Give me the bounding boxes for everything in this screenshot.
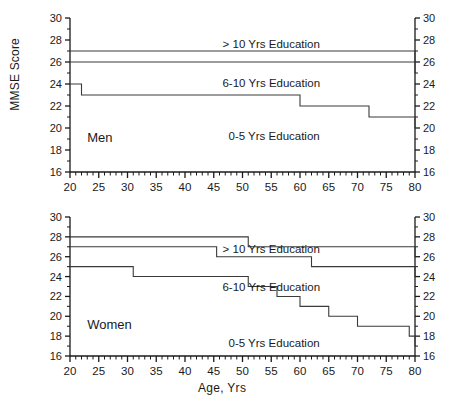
svg-text:55: 55 — [265, 365, 278, 377]
svg-text:35: 35 — [150, 365, 163, 377]
svg-text:22: 22 — [423, 290, 435, 302]
svg-text:16: 16 — [50, 350, 62, 362]
svg-text:55: 55 — [265, 181, 278, 193]
svg-text:22: 22 — [50, 290, 62, 302]
svg-text:16: 16 — [50, 166, 62, 178]
svg-text:60: 60 — [294, 181, 307, 193]
svg-text:> 10 Yrs Education: > 10 Yrs Education — [223, 243, 320, 255]
svg-text:50: 50 — [236, 181, 249, 193]
svg-text:28: 28 — [50, 231, 62, 243]
svg-text:24: 24 — [423, 78, 435, 90]
svg-text:30: 30 — [50, 211, 62, 223]
svg-text:0-5 Yrs Education: 0-5 Yrs Education — [229, 337, 320, 349]
svg-text:6-10 Yrs Education: 6-10 Yrs Education — [222, 77, 320, 89]
svg-text:> 10 Yrs Education: > 10 Yrs Education — [223, 38, 320, 50]
svg-text:30: 30 — [423, 211, 435, 223]
svg-text:26: 26 — [423, 251, 435, 263]
y-axis-label-men: MMSE Score — [8, 38, 22, 111]
svg-text:25: 25 — [92, 181, 105, 193]
svg-text:6-10 Yrs Education: 6-10 Yrs Education — [222, 281, 320, 293]
svg-text:70: 70 — [351, 365, 364, 377]
svg-text:40: 40 — [179, 365, 192, 377]
svg-text:50: 50 — [236, 365, 249, 377]
svg-text:Women: Women — [87, 317, 132, 332]
svg-text:30: 30 — [50, 12, 62, 24]
x-axis-label: Age, Yrs — [198, 381, 246, 395]
svg-text:24: 24 — [423, 271, 435, 283]
chart-svg-men: 1616181820202222242426262828303020253035… — [0, 4, 456, 200]
svg-text:20: 20 — [64, 365, 77, 377]
svg-text:18: 18 — [50, 144, 62, 156]
svg-text:26: 26 — [50, 251, 62, 263]
svg-text:18: 18 — [423, 330, 435, 342]
svg-text:28: 28 — [423, 231, 435, 243]
svg-text:24: 24 — [50, 271, 62, 283]
svg-text:16: 16 — [423, 166, 435, 178]
svg-text:18: 18 — [50, 330, 62, 342]
svg-text:35: 35 — [150, 181, 163, 193]
svg-text:75: 75 — [380, 365, 393, 377]
svg-text:20: 20 — [423, 310, 435, 322]
svg-text:20: 20 — [50, 310, 62, 322]
svg-text:30: 30 — [121, 181, 134, 193]
svg-text:80: 80 — [409, 365, 422, 377]
svg-text:0-5 Yrs Education: 0-5 Yrs Education — [229, 130, 320, 142]
svg-text:18: 18 — [423, 144, 435, 156]
svg-text:16: 16 — [423, 350, 435, 362]
svg-text:25: 25 — [92, 365, 105, 377]
svg-text:65: 65 — [322, 181, 335, 193]
svg-text:26: 26 — [423, 56, 435, 68]
chart-panel-men: MMSE Score 16161818202022222424262628283… — [0, 4, 456, 200]
svg-text:75: 75 — [380, 181, 393, 193]
svg-text:40: 40 — [179, 181, 192, 193]
svg-text:20: 20 — [423, 122, 435, 134]
svg-text:24: 24 — [50, 78, 62, 90]
svg-text:65: 65 — [322, 365, 335, 377]
svg-text:45: 45 — [207, 365, 220, 377]
svg-text:26: 26 — [50, 56, 62, 68]
svg-text:30: 30 — [423, 12, 435, 24]
svg-text:80: 80 — [409, 181, 422, 193]
svg-text:28: 28 — [50, 34, 62, 46]
svg-text:22: 22 — [423, 100, 435, 112]
svg-text:60: 60 — [294, 365, 307, 377]
figure-mmse-by-age-education: MMSE Score 16161818202022222424262628283… — [0, 0, 456, 412]
svg-text:70: 70 — [351, 181, 364, 193]
svg-text:20: 20 — [50, 122, 62, 134]
svg-text:28: 28 — [423, 34, 435, 46]
svg-text:30: 30 — [121, 365, 134, 377]
svg-text:Men: Men — [87, 130, 112, 145]
svg-text:22: 22 — [50, 100, 62, 112]
svg-text:45: 45 — [207, 181, 220, 193]
svg-text:20: 20 — [64, 181, 77, 193]
